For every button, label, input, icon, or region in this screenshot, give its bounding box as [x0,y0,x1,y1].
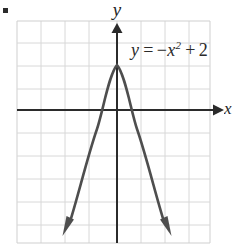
equation-minus: − [157,40,167,60]
equation-label: y=−x2+2 [131,40,208,61]
equation-lhs: y [131,40,139,60]
equation-equals: = [143,40,153,60]
equation-variable: x [167,40,175,60]
equation-constant: 2 [199,40,208,60]
equation-plus: + [185,40,195,60]
equation-exponent: 2 [176,39,182,51]
coordinate-plane [0,0,233,247]
graph-figure: y x [0,0,233,247]
